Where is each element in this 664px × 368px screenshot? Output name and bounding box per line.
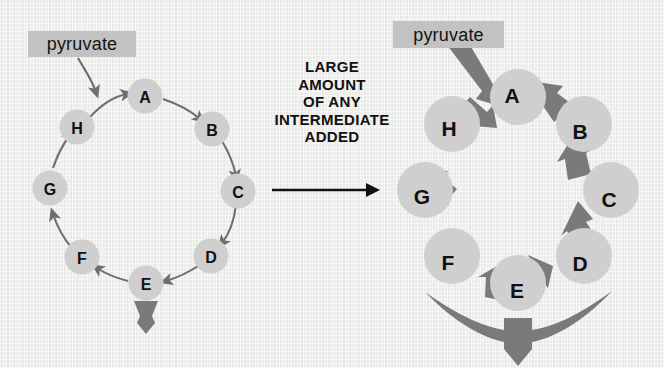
left-arrow-c-d [222, 205, 236, 243]
left-arrow-a-b [163, 99, 200, 119]
left-node-label-g: G [44, 181, 56, 198]
left-node-label-d: D [205, 249, 217, 266]
caption-line-3: OF ANY [258, 93, 406, 111]
left-cycle-outflow-arrow [134, 301, 158, 334]
caption-line-1: LARGE [258, 58, 406, 76]
left-node-label-f: F [77, 250, 87, 267]
caption-line-2: AMOUNT [258, 76, 406, 94]
right-node-label-h: H [441, 117, 456, 140]
right-node-label-c: C [601, 188, 616, 211]
left-arrow-f-g [53, 214, 72, 248]
left-pyruvate-inflow-arrow [78, 58, 96, 92]
left-cycle-nodes: A B C D E F G H [33, 79, 256, 301]
caption-line-4: INTERMEDIATE [258, 111, 406, 129]
right-node-label-g: G [414, 185, 430, 208]
left-arrow-h-a [90, 94, 127, 117]
figure-canvas: A B C D E F G H [0, 0, 664, 368]
left-node-label-e: E [141, 276, 152, 293]
caption-line-5: ADDED [258, 128, 406, 146]
transition-arrow [272, 183, 380, 197]
right-pyruvate-label-box: pyruvate [393, 21, 504, 48]
left-node-label-a: A [139, 89, 151, 106]
right-node-label-f: F [442, 251, 455, 274]
left-pyruvate-label: pyruvate [47, 35, 118, 53]
center-caption: LARGE AMOUNT OF ANY INTERMEDIATE ADDED [258, 58, 406, 146]
right-node-label-a: A [504, 84, 519, 107]
left-node-label-h: H [71, 120, 83, 137]
left-arrow-d-e [166, 266, 198, 281]
transition-arrow-head [366, 183, 380, 197]
right-pyruvate-label: pyruvate [413, 26, 484, 44]
left-node-label-c: C [232, 184, 244, 201]
left-node-label-b: B [206, 122, 218, 139]
left-arrow-b-c [222, 141, 236, 176]
left-pyruvate-label-box: pyruvate [28, 31, 136, 57]
right-node-label-e: E [510, 279, 524, 302]
left-arrow-e-f [97, 268, 128, 281]
right-node-label-b: B [572, 120, 587, 143]
right-node-label-d: D [572, 252, 587, 275]
